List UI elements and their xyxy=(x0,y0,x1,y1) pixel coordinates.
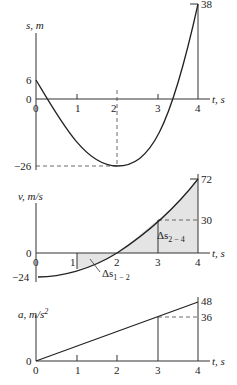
v-tick-72: 72 xyxy=(201,173,212,185)
a-axis-label: a, m/s2 xyxy=(18,307,48,320)
kinematics-figure: s, m 6 0 38 −26 0 1 2 3 4 t, s v, m/s 0 … xyxy=(0,0,237,385)
v-t-chart: v, m/s 0 −24 30 72 0 1 2 3 4 t, s Δs2 − … xyxy=(12,173,225,283)
a-tick-0: 0 xyxy=(26,355,32,367)
a-t-tick-1: 1 xyxy=(75,364,81,376)
a-tick-48: 48 xyxy=(201,295,213,307)
v-t-tick-3: 3 xyxy=(155,256,161,268)
s-t-tick-1: 1 xyxy=(75,102,81,114)
s-tick-0: 0 xyxy=(26,93,32,105)
v-tick-m24: −24 xyxy=(12,271,30,283)
s-axis-label: s, m xyxy=(26,19,44,31)
a-t-tick-2: 2 xyxy=(114,364,120,376)
v-t-tick-0: 0 xyxy=(33,256,39,268)
s-t-axis-label: t, s xyxy=(212,93,225,105)
s-t-tick-4: 4 xyxy=(195,102,201,114)
v-tick-30: 30 xyxy=(201,214,213,226)
s-t-chart: s, m 6 0 38 −26 0 1 2 3 4 t, s xyxy=(14,0,225,172)
s-tick-6: 6 xyxy=(26,74,32,86)
v-axis-label: v, m/s xyxy=(18,190,43,202)
a-line xyxy=(36,302,198,361)
s-t-tick-2: 2 xyxy=(111,102,117,114)
a-t-tick-4: 4 xyxy=(195,364,201,376)
s-tick-38: 38 xyxy=(201,0,213,10)
a-tick-36: 36 xyxy=(201,311,213,323)
s-t-tick-0: 0 xyxy=(33,102,39,114)
a-t-axis-label: t, s xyxy=(212,355,225,367)
v-t-tick-4: 4 xyxy=(195,256,201,268)
v-tick-0: 0 xyxy=(26,247,32,259)
a-t-tick-3: 3 xyxy=(155,364,161,376)
ds12-label: Δs1 − 2 xyxy=(102,267,130,282)
s-t-tick-3: 3 xyxy=(155,102,161,114)
s-tick-m26: −26 xyxy=(14,160,32,172)
a-t-chart: a, m/s2 0 36 48 0 1 2 3 4 t, s xyxy=(18,295,225,376)
v-t-tick-2: 2 xyxy=(114,256,120,268)
v-t-axis-label: t, s xyxy=(212,247,225,259)
v-t-tick-1: 1 xyxy=(70,256,76,268)
a-t-tick-0: 0 xyxy=(33,364,39,376)
